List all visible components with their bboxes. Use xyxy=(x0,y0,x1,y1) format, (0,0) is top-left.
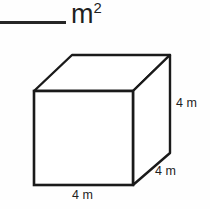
dimension-label-right: 4 m xyxy=(176,96,197,110)
unit-exponent: 2 xyxy=(94,0,102,16)
figure-problem-canvas: m2 4 m 4 m 4 m xyxy=(0,0,210,209)
cube-diagram-svg xyxy=(0,38,210,209)
dimension-label-bottom: 4 m xyxy=(72,188,93,202)
unit-base: m xyxy=(71,0,94,29)
unit-label: m2 xyxy=(71,0,102,29)
cube-front-face xyxy=(34,91,133,185)
cube-figure: 4 m 4 m 4 m xyxy=(0,38,210,209)
answer-row: m2 xyxy=(0,0,210,38)
answer-blank-line[interactable] xyxy=(0,21,66,24)
dimension-label-depth: 4 m xyxy=(155,164,176,178)
